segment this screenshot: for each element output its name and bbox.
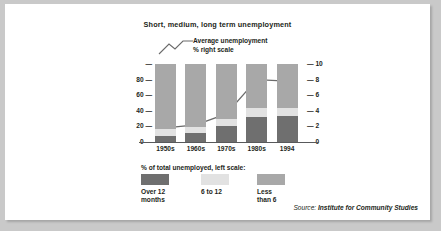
bar-segment-6-to-12 — [277, 108, 298, 117]
y-tick-l-5: — — [145, 60, 152, 67]
bar-segment-less-than-6 — [155, 64, 176, 129]
bar-segment-less-than-6 — [185, 64, 206, 127]
bar-1960s — [185, 64, 206, 142]
bar-segment-over-12-months — [246, 117, 267, 142]
y-tick-r-5: — 10 — [307, 60, 323, 67]
chart-card: Short, medium, long term unemployment Av… — [5, 4, 430, 220]
line-series-annotation-line1: Average unemployment — [193, 37, 268, 46]
line-series-sample-icon — [157, 40, 195, 56]
bar-segment-6-to-12 — [216, 119, 237, 126]
legend-item-2: Less than 6 — [257, 174, 285, 204]
source-note: Source: Institute for Community Studies — [293, 204, 418, 211]
legend-swatch-2 — [257, 174, 285, 185]
bar-segment-over-12-months — [216, 126, 237, 142]
x-label-1970s: 1970s — [210, 145, 242, 152]
x-label-1994: 1994 — [271, 145, 303, 152]
x-axis-line — [139, 142, 319, 143]
legend-item-1: 6 to 12 — [201, 174, 229, 196]
legend-item-0: Over 12 months — [141, 174, 169, 204]
y-tick-r-4: — 8 — [307, 76, 319, 83]
bar-segment-less-than-6 — [246, 64, 267, 108]
y-tick-l-3: 60 — — [136, 91, 152, 98]
y-tick-r-3: — 6 — [307, 91, 319, 98]
source-prefix: Source: — [293, 204, 318, 211]
legend-label-2: Less than 6 — [257, 188, 285, 204]
y-axis-left: 0 —20 —40 —60 —80 — — — [123, 58, 152, 148]
legend-label-1: 6 to 12 — [201, 188, 229, 196]
plot-area — [153, 64, 305, 142]
source-name: Institute for Community Studies — [318, 204, 418, 211]
y-tick-r-2: — 4 — [307, 107, 319, 114]
bar-1994 — [277, 64, 298, 142]
legend-swatch-0 — [141, 174, 169, 185]
legend-title: % of total unemployed, left scale: — [141, 164, 245, 171]
x-label-1980s: 1980s — [241, 145, 273, 152]
line-series-annotation: Average unemployment % right scale — [193, 37, 268, 54]
x-label-1950s: 1950s — [150, 145, 182, 152]
y-tick-l-4: 80 — — [136, 76, 152, 83]
legend-label-0: Over 12 months — [141, 188, 169, 204]
bar-segment-less-than-6 — [277, 64, 298, 108]
bar-1950s — [155, 64, 176, 142]
bar-segment-less-than-6 — [216, 64, 237, 119]
chart-title: Short, medium, long term unemployment — [5, 20, 430, 29]
bar-1970s — [216, 64, 237, 142]
bar-segment-6-to-12 — [155, 129, 176, 136]
line-series-annotation-line2: % right scale — [193, 46, 268, 55]
y-tick-l-2: 40 — — [136, 107, 152, 114]
y-axis-right: — 0— 2— 4— 6— 8— 10 — [307, 58, 343, 148]
x-label-1960s: 1960s — [180, 145, 212, 152]
legend-swatch-1 — [201, 174, 229, 185]
bar-segment-over-12-months — [277, 116, 298, 142]
bar-1980s — [246, 64, 267, 142]
y-tick-r-1: — 2 — [307, 122, 319, 129]
bar-segment-6-to-12 — [246, 108, 267, 117]
bar-segment-over-12-months — [185, 133, 206, 142]
y-tick-l-1: 20 — — [136, 122, 152, 129]
x-axis-labels: 1950s1960s1970s1980s1994 — [153, 145, 305, 157]
